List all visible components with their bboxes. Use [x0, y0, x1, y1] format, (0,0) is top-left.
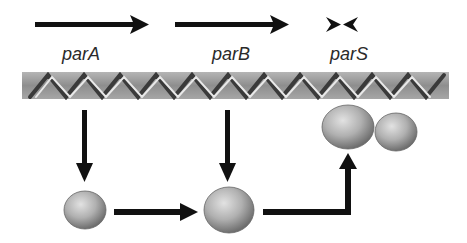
arrow-parB-to-complex [263, 153, 357, 215]
diagram-canvas [0, 0, 467, 243]
protein-complex-small [375, 113, 417, 151]
arrow-parA-to-parB [114, 203, 198, 221]
protein-parB [204, 187, 254, 233]
gene-arrow-parB [175, 15, 289, 34]
arrow-parB-to-protein [219, 110, 236, 182]
gene-arrow-parA [35, 15, 149, 34]
label-parS: parS [330, 44, 368, 65]
label-parB: parB [212, 44, 250, 65]
protein-complex-large [322, 105, 374, 149]
protein-parA [64, 191, 106, 229]
label-parA: parA [62, 44, 100, 65]
parS-site-icon [326, 17, 358, 32]
dna-helix [22, 72, 449, 99]
arrow-parA-to-protein [76, 110, 93, 182]
